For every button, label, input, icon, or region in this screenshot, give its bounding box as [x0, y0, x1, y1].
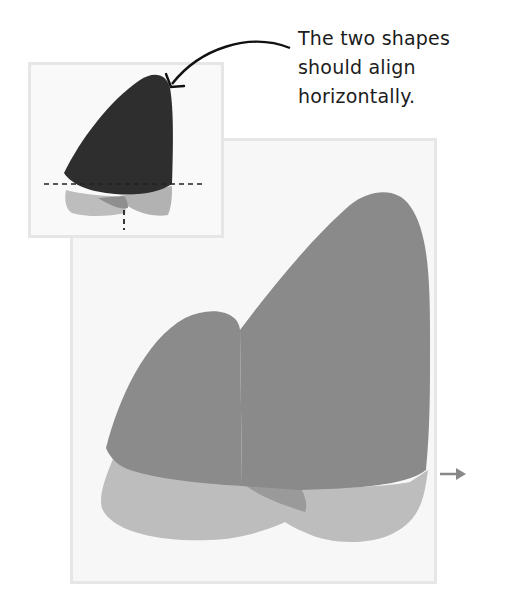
callout-text: The two shapes should align horizontally… — [298, 24, 518, 111]
thumb-dark-shape — [64, 75, 173, 195]
callout-line-1: The two shapes — [298, 24, 518, 53]
callout-line-3: horizontally. — [298, 82, 518, 111]
curved-arrow-icon — [166, 42, 290, 87]
callout-line-2: should align — [298, 53, 518, 82]
